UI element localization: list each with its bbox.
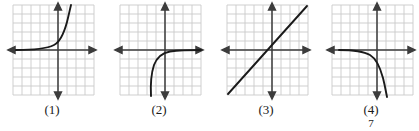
graph-2-label: (2) — [113, 102, 205, 118]
axes — [8, 3, 96, 99]
x-axis-arrow-left — [222, 47, 229, 54]
x-axis-arrow-left — [115, 47, 122, 54]
graph-choice-2[interactable]: (2) — [113, 0, 205, 131]
graph-choice-4[interactable]: (4) — [325, 0, 417, 131]
axes — [327, 3, 415, 99]
increasing-concave-down-curve — [151, 50, 201, 96]
y-axis-arrow-up — [374, 3, 381, 10]
graph-1-label: (1) — [6, 102, 98, 118]
y-axis-arrow-up — [55, 3, 62, 10]
graph-3-plot-area — [220, 0, 312, 102]
x-axis-arrow-right — [303, 47, 310, 54]
decreasing-exponential-curve — [339, 50, 387, 97]
x-axis-arrow-left — [8, 47, 15, 54]
graph-choices-figure: (1) — [0, 0, 419, 131]
x-axis-arrow-left — [327, 47, 334, 54]
x-axis-arrow-right — [408, 47, 415, 54]
x-axis-arrow-right — [89, 47, 96, 54]
page-number: 7 — [360, 117, 382, 130]
graph-choice-3[interactable]: (3) — [220, 0, 312, 131]
y-axis-arrow-down — [269, 92, 276, 99]
y-axis-arrow-down — [162, 92, 169, 99]
graph-2-plot-area — [113, 0, 205, 102]
y-axis-arrow-down — [374, 92, 381, 99]
graph-choice-1[interactable]: (1) — [6, 0, 98, 131]
graph-4-plot-area — [325, 0, 417, 102]
increasing-exponential-curve — [16, 5, 71, 50]
y-axis-arrow-down — [55, 92, 62, 99]
graph-1-plot-area — [6, 0, 98, 102]
graph-4-label: (4) — [325, 102, 417, 118]
y-axis-arrow-up — [269, 3, 276, 10]
y-axis-arrow-up — [162, 3, 169, 10]
graph-3-label: (3) — [220, 102, 312, 118]
